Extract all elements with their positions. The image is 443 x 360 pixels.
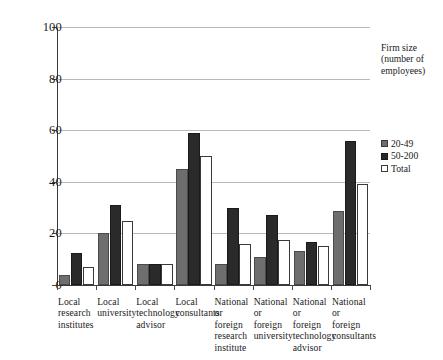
x-category-label-line: Local	[175, 296, 212, 307]
x-category-label-line: Local	[97, 296, 134, 307]
bar	[306, 242, 318, 285]
legend-title: Firm size (number of employees)	[381, 42, 443, 76]
legend-item-20-49[interactable]: 20-49	[381, 138, 443, 150]
x-category-label-line: technology	[293, 330, 330, 341]
bar	[83, 267, 95, 285]
x-category-label: Nationalor foreignconsultants	[332, 296, 369, 342]
bar	[176, 169, 188, 285]
y-tick-label: 80	[22, 73, 62, 85]
bar	[122, 221, 134, 286]
legend-swatch-icon	[381, 165, 388, 172]
x-category-label-line: university	[97, 307, 134, 318]
x-category-label-line: or foreign	[332, 307, 369, 330]
y-tick-label: 20	[22, 227, 62, 239]
x-category-label-line: Local	[136, 296, 173, 307]
x-category-label-line: National	[332, 296, 369, 307]
legend-title-line: employees)	[381, 65, 443, 76]
legend-item-total[interactable]: Total	[381, 163, 443, 175]
x-category-label: Nationalor foreigntechnologyadvisor	[293, 296, 330, 353]
bar	[254, 257, 266, 285]
bar	[188, 133, 200, 285]
x-category-label-line: institute	[215, 342, 252, 353]
x-category-label: Localconsultants	[175, 296, 212, 319]
bar	[110, 205, 122, 285]
x-category-label-line: research	[58, 307, 95, 318]
x-category-label-line: National	[254, 296, 291, 307]
gridline	[57, 182, 370, 183]
legend-swatch-icon	[381, 153, 388, 160]
legend-swatch-icon	[381, 140, 388, 147]
y-tick-label: 0	[22, 279, 62, 291]
bar	[98, 233, 110, 285]
bar	[345, 141, 357, 285]
legend: 20-49 50-200 Total	[381, 138, 443, 176]
x-category-label-line: consultants	[175, 307, 212, 318]
bar	[318, 246, 330, 285]
legend-title-line: (number of	[381, 53, 443, 64]
x-category-label-line: advisor	[293, 342, 330, 353]
x-tick-mark	[174, 285, 175, 290]
y-tick-label: 40	[22, 176, 62, 188]
bar	[200, 156, 212, 285]
gridline	[57, 130, 370, 131]
bar	[227, 208, 239, 285]
bar	[333, 211, 345, 285]
x-category-label: Localresearchinstitutes	[58, 296, 95, 330]
y-tick-label: 60	[22, 124, 62, 136]
bar	[59, 275, 71, 285]
x-category-label: Nationalor foreignuniversity	[254, 296, 291, 342]
x-tick-mark	[96, 285, 97, 290]
bar	[294, 251, 306, 285]
x-category-label-line: research	[215, 330, 252, 341]
x-tick-mark	[57, 285, 58, 290]
x-category-label-line: Local	[58, 296, 95, 307]
x-category-label: Nationalor foreignresearchinstitute	[215, 296, 252, 353]
x-category-label-line: National	[215, 296, 252, 307]
legend-item-label: Total	[391, 164, 411, 174]
bar	[137, 264, 149, 285]
legend-item-label: 20-49	[391, 139, 413, 149]
bar	[149, 264, 161, 285]
bar	[215, 264, 227, 285]
x-category-label-line: or foreign	[215, 307, 252, 330]
x-category-label: Localtechnologyadvisor	[136, 296, 173, 330]
bar	[278, 240, 290, 285]
x-tick-mark	[292, 285, 293, 290]
x-tick-mark	[214, 285, 215, 290]
legend-item-50-200[interactable]: 50-200	[381, 151, 443, 163]
gridline	[57, 27, 370, 28]
x-tick-mark	[135, 285, 136, 290]
legend-item-label: 50-200	[391, 151, 418, 161]
x-category-label-line: university	[254, 330, 291, 341]
x-category-label-line: consultants	[332, 330, 369, 341]
gridline	[57, 79, 370, 80]
x-category-label-line: advisor	[136, 319, 173, 330]
x-tick-mark	[331, 285, 332, 290]
bar-chart: 020406080100 LocalresearchinstitutesLoca…	[0, 0, 443, 360]
x-tick-mark	[370, 285, 371, 290]
y-tick-label: 100	[22, 21, 62, 33]
x-category-label-line: National	[293, 296, 330, 307]
bar	[357, 184, 369, 285]
bar	[71, 253, 83, 285]
x-category-label: Localuniversity	[97, 296, 134, 319]
x-category-label-line: or foreign	[293, 307, 330, 330]
x-category-label-line: or foreign	[254, 307, 291, 330]
x-category-label-line: technology	[136, 307, 173, 318]
bar	[239, 244, 251, 285]
bar	[161, 264, 173, 285]
legend-title-line: Firm size	[381, 42, 443, 53]
x-tick-mark	[253, 285, 254, 290]
bar	[266, 215, 278, 285]
x-category-label-line: institutes	[58, 319, 95, 330]
